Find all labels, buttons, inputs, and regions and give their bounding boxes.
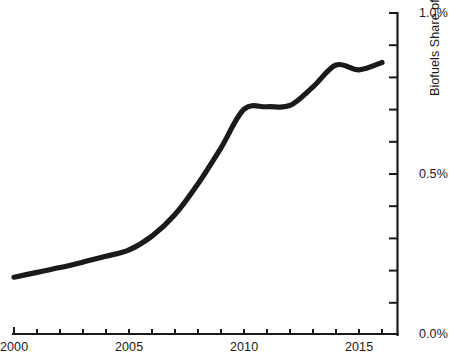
x-tick-label-2010: 2010 xyxy=(230,340,258,354)
y-axis-title: Biofuels Share of Primary Energy xyxy=(428,0,442,96)
line-chart-plot xyxy=(0,0,461,360)
x-tick-label-2015: 2015 xyxy=(345,340,373,354)
x-tick-label-2000: 2000 xyxy=(0,340,28,354)
y-tick-label-0-5: 0.5% xyxy=(419,167,448,181)
y-tick-label-0: 0.0% xyxy=(419,327,448,341)
y-axis-ticks xyxy=(389,13,397,334)
data-series-line xyxy=(14,62,382,277)
chart-container: 1.0% 0.5% 0.0% 2000 2005 2010 2015 Biofu… xyxy=(0,0,461,360)
x-tick-label-2005: 2005 xyxy=(115,340,143,354)
